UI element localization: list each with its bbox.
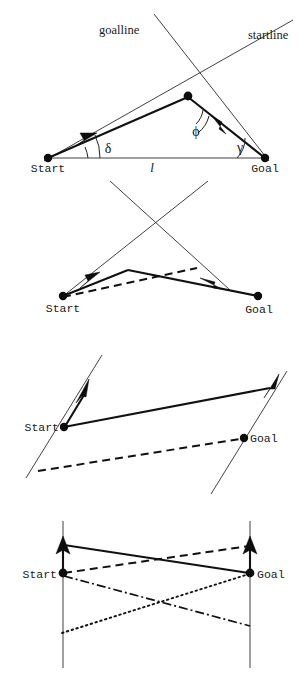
dashdot-trajectory-line [64, 576, 250, 626]
panel-angle-definition: goalline startline Start Goal δ ϕ γ l [0, 0, 308, 178]
baseline-length-label: l [150, 160, 154, 175]
goal-label: Goal [245, 303, 273, 316]
start-label: Start [46, 302, 81, 315]
phi-angle-arc [196, 110, 203, 124]
panel-crossing-lines: Start Goal [0, 178, 308, 350]
goal-node-dot [261, 154, 269, 162]
startline-label: startline [248, 28, 289, 42]
start-label: Start [24, 421, 59, 434]
start-to-goal-segment [64, 388, 270, 427]
panel-vertical-lines: Start Goal [0, 505, 308, 691]
dashed-parallel-line [38, 438, 246, 471]
goal-label: Goal [257, 568, 285, 581]
gamma-angle-label: γ [236, 140, 243, 155]
delta-angle-arc [95, 135, 100, 158]
dotted-trajectory-line [62, 574, 249, 633]
thin-parallel-line-left [26, 355, 102, 478]
start-node-dot [44, 154, 52, 162]
start-node-dot [59, 292, 67, 300]
goal-label: Goal [250, 432, 278, 445]
phi-angle-label: ϕ [192, 124, 199, 139]
goalline-label: goalline [99, 23, 140, 37]
start-label: Start [31, 162, 66, 175]
start-node-dot [60, 423, 68, 431]
goal-leg-segment [128, 270, 258, 296]
goal-node-dot [246, 569, 255, 578]
start-to-apex-segment [48, 97, 188, 158]
start-label: Start [22, 568, 57, 581]
goal-label: Goal [251, 162, 279, 175]
dashed-chord-line [63, 268, 197, 297]
goal-heading-arrow-icon [264, 374, 279, 398]
panel-parallel-lines: Start Goal [0, 350, 308, 505]
goal-node-dot [240, 434, 248, 442]
delta-angle-label: δ [105, 141, 112, 156]
thin-crossing-line-b [62, 181, 208, 297]
start-node-dot [59, 569, 68, 578]
goal-node-dot [254, 292, 262, 300]
figure-root: goalline startline Start Goal δ ϕ γ l St… [0, 0, 308, 691]
delta-angle-inner-arc [85, 147, 88, 158]
apex-node-dot [184, 92, 193, 101]
